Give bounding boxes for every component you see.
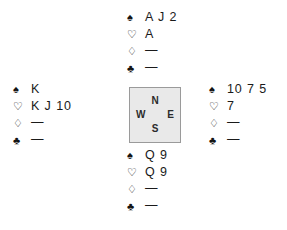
compass-label-west: W (136, 110, 145, 120)
heart-icon: ♡ (13, 101, 29, 112)
bridge-hand-diagram: ♠ A J 2 ♡ A ♢ — ♣ — ♠ K ♡ K J 10 ♢ — (0, 0, 287, 230)
heart-icon: ♡ (127, 167, 143, 178)
hand-west-clubs: — (29, 133, 44, 146)
hand-north-spades: A J 2 (143, 11, 177, 24)
spade-icon: ♠ (209, 84, 225, 95)
diamond-icon: ♢ (127, 184, 143, 195)
compass-box: N W E S (129, 87, 181, 143)
hand-west-spades-row: ♠ K (13, 81, 72, 98)
club-icon: ♣ (127, 63, 143, 74)
heart-icon: ♡ (209, 101, 225, 112)
hand-east: ♠ 10 7 5 ♡ 7 ♢ — ♣ — (209, 81, 267, 149)
club-icon: ♣ (13, 135, 29, 146)
hand-east-clubs-row: ♣ — (209, 132, 267, 149)
hand-east-diamonds-row: ♢ — (209, 115, 267, 132)
hand-east-clubs: — (225, 133, 240, 146)
spade-icon: ♠ (13, 84, 29, 95)
hand-north-clubs-row: ♣ — (127, 60, 177, 77)
spade-icon: ♠ (127, 12, 143, 23)
hand-north-clubs: — (143, 61, 158, 74)
hand-south-clubs: — (143, 199, 158, 212)
club-icon: ♣ (127, 201, 143, 212)
hand-east-spades-row: ♠ 10 7 5 (209, 81, 267, 98)
hand-east-diamonds: — (225, 116, 240, 129)
hand-south: ♠ Q 9 ♡ Q 9 ♢ — ♣ — (127, 147, 168, 215)
hand-north-hearts: A (143, 28, 154, 41)
compass-label-east: E (167, 110, 174, 120)
hand-south-spades-row: ♠ Q 9 (127, 147, 168, 164)
hand-south-spades: Q 9 (143, 149, 168, 162)
hand-south-diamonds: — (143, 182, 158, 195)
hand-north-hearts-row: ♡ A (127, 26, 177, 43)
hand-south-diamonds-row: ♢ — (127, 181, 168, 198)
hand-west-hearts: K J 10 (29, 100, 72, 113)
hand-east-spades: 10 7 5 (225, 83, 267, 96)
spade-icon: ♠ (127, 150, 143, 161)
hand-north-spades-row: ♠ A J 2 (127, 9, 177, 26)
diamond-icon: ♢ (127, 46, 143, 57)
hand-north-diamonds: — (143, 44, 158, 57)
hand-west-diamonds-row: ♢ — (13, 115, 72, 132)
hand-west-diamonds: — (29, 116, 44, 129)
compass-label-north: N (151, 96, 158, 106)
hand-north-diamonds-row: ♢ — (127, 43, 177, 60)
compass-label-south: S (152, 124, 159, 134)
hand-east-hearts-row: ♡ 7 (209, 98, 267, 115)
hand-north: ♠ A J 2 ♡ A ♢ — ♣ — (127, 9, 177, 77)
heart-icon: ♡ (127, 29, 143, 40)
club-icon: ♣ (209, 135, 225, 146)
hand-west: ♠ K ♡ K J 10 ♢ — ♣ — (13, 81, 72, 149)
hand-south-hearts-row: ♡ Q 9 (127, 164, 168, 181)
hand-east-hearts: 7 (225, 100, 235, 113)
hand-south-hearts: Q 9 (143, 166, 168, 179)
hand-west-spades: K (29, 83, 40, 96)
hand-south-clubs-row: ♣ — (127, 198, 168, 215)
diamond-icon: ♢ (13, 118, 29, 129)
diamond-icon: ♢ (209, 118, 225, 129)
hand-west-hearts-row: ♡ K J 10 (13, 98, 72, 115)
hand-west-clubs-row: ♣ — (13, 132, 72, 149)
